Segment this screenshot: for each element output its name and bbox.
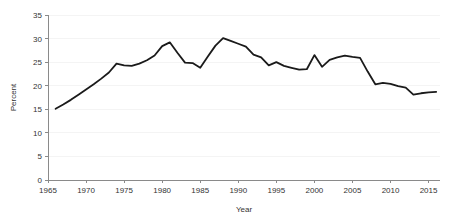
y-tick-label: 20 [33, 82, 42, 91]
x-axis-title: Year [236, 205, 253, 214]
x-tick-label: 2000 [306, 186, 324, 195]
x-axis-ticks: 1965197019751980198519901995200020052010… [39, 180, 438, 195]
y-tick-label: 0 [38, 176, 43, 185]
y-tick-label: 35 [33, 11, 42, 20]
x-tick-label: 1995 [267, 186, 285, 195]
series-line-percent [56, 38, 437, 109]
axis-lines [48, 15, 440, 180]
x-tick-label: 1970 [77, 186, 95, 195]
y-tick-label: 10 [33, 129, 42, 138]
x-tick-label: 1985 [191, 186, 209, 195]
x-tick-label: 1975 [115, 186, 133, 195]
y-axis-title: Percent [9, 83, 18, 111]
x-tick-label: 2015 [420, 186, 438, 195]
y-tick-label: 25 [33, 58, 42, 67]
data-series [56, 38, 437, 109]
line-chart-figure: 05101520253035 1965197019751980198519901… [0, 0, 456, 222]
x-tick-label: 2010 [382, 186, 400, 195]
gridlines [48, 15, 440, 156]
chart-canvas: 05101520253035 1965197019751980198519901… [0, 0, 456, 222]
y-axis-ticks: 05101520253035 [33, 11, 48, 185]
x-tick-label: 1980 [153, 186, 171, 195]
y-tick-label: 15 [33, 105, 42, 114]
y-tick-label: 30 [33, 35, 42, 44]
x-tick-label: 1990 [229, 186, 247, 195]
y-tick-label: 5 [38, 152, 43, 161]
x-tick-label: 1965 [39, 186, 57, 195]
x-tick-label: 2005 [344, 186, 362, 195]
